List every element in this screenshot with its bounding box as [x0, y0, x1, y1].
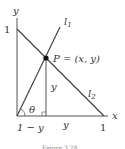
line-l2 — [17, 29, 104, 116]
x-axis-label: x — [112, 110, 118, 121]
line-l1-label: l1 — [64, 16, 72, 29]
angle-theta-label: θ — [29, 104, 35, 115]
diagram-canvas: y x 1 l2 l1 P = (x, y) y θ 1 − y y 1 Fig… — [0, 0, 125, 149]
angle-arc — [21, 109, 26, 116]
point-p — [43, 55, 48, 60]
point-p-label: P = (x, y) — [52, 53, 100, 64]
right-angle-mark — [42, 112, 46, 116]
left-segment-label: 1 − y — [17, 122, 44, 133]
figure-caption: Figure 3.28 — [42, 144, 78, 149]
horizontal-y-label: y — [62, 119, 69, 130]
x-tick-one: 1 — [100, 122, 106, 133]
vertical-y-label: y — [50, 81, 57, 92]
y-tick-one: 1 — [4, 24, 10, 35]
line-l2-label: l2 — [88, 88, 96, 101]
line-l1 — [17, 27, 60, 116]
y-axis-label: y — [12, 5, 19, 16]
